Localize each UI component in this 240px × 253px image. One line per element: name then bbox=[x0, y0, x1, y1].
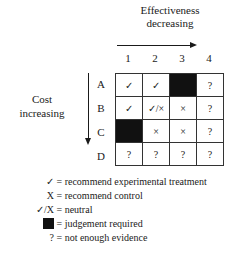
legend-text: = recommend experimental treatment bbox=[57, 176, 207, 187]
effectiveness-axis-title: Effectiveness decreasing bbox=[115, 4, 225, 30]
legend-item-neutral: ✓/X = neutral bbox=[6, 204, 92, 216]
grid-row-a: ✓ ✓ ? bbox=[116, 74, 224, 97]
cell-b1: ✓ bbox=[116, 97, 143, 120]
column-header-4: 4 bbox=[196, 52, 222, 64]
column-header-2: 2 bbox=[142, 52, 168, 64]
cell-d1: ? bbox=[116, 143, 143, 166]
cost-axis-title: Cost increasing bbox=[12, 92, 72, 120]
axis-title-line1: Effectiveness bbox=[115, 4, 225, 17]
cell-d3: ? bbox=[170, 143, 197, 166]
axis-title-line2: decreasing bbox=[115, 17, 225, 30]
row-header-c: C bbox=[93, 126, 109, 138]
grid-row-c: × × ? bbox=[116, 120, 224, 143]
cell-a3-judgement bbox=[170, 74, 197, 97]
black-square-icon bbox=[43, 218, 54, 229]
grid-row-b: ✓ ✓/× × ? bbox=[116, 97, 224, 120]
check-x-icon: ✓/X bbox=[6, 204, 54, 216]
right-arrow-icon bbox=[117, 45, 191, 46]
cell-d2: ? bbox=[143, 143, 170, 166]
legend-item-control: X = recommend control bbox=[14, 190, 143, 202]
arrowhead-right-icon bbox=[190, 42, 197, 48]
cell-c4: ? bbox=[197, 120, 224, 143]
legend-text: = recommend control bbox=[57, 190, 143, 201]
legend-text: = not enough evidence bbox=[57, 232, 148, 243]
column-header-1: 1 bbox=[115, 52, 141, 64]
legend-text: = judgement required bbox=[57, 218, 143, 229]
legend-item-judgement: = judgement required bbox=[14, 218, 143, 230]
row-header-d: D bbox=[93, 150, 109, 162]
decision-grid: ✓ ✓ ? ✓ ✓/× × ? × × ? ? ? ? ? bbox=[115, 73, 224, 166]
check-icon: ✓ bbox=[14, 176, 54, 188]
row-header-b: B bbox=[93, 102, 109, 114]
legend-item-treatment: ✓ = recommend experimental treatment bbox=[14, 176, 207, 188]
legend-text: = neutral bbox=[57, 204, 93, 215]
cost-title-line2: increasing bbox=[12, 106, 72, 120]
column-header-3: 3 bbox=[169, 52, 195, 64]
cell-c2: × bbox=[143, 120, 170, 143]
cell-a1: ✓ bbox=[116, 74, 143, 97]
cell-b3: × bbox=[170, 97, 197, 120]
cell-b4: ? bbox=[197, 97, 224, 120]
cost-title-line1: Cost bbox=[12, 92, 72, 106]
cell-c1-judgement bbox=[116, 120, 143, 143]
cell-d4: ? bbox=[197, 143, 224, 166]
arrowhead-down-icon bbox=[85, 138, 91, 145]
x-icon: X bbox=[14, 190, 54, 202]
down-arrow-icon bbox=[88, 73, 89, 139]
cell-a4: ? bbox=[197, 74, 224, 97]
question-icon: ? bbox=[14, 232, 54, 244]
row-header-a: A bbox=[93, 78, 109, 90]
grid-row-d: ? ? ? ? bbox=[116, 143, 224, 166]
cell-c3: × bbox=[170, 120, 197, 143]
legend-item-evidence: ? = not enough evidence bbox=[14, 232, 147, 244]
cell-a2: ✓ bbox=[143, 74, 170, 97]
cell-b2: ✓/× bbox=[143, 97, 170, 120]
